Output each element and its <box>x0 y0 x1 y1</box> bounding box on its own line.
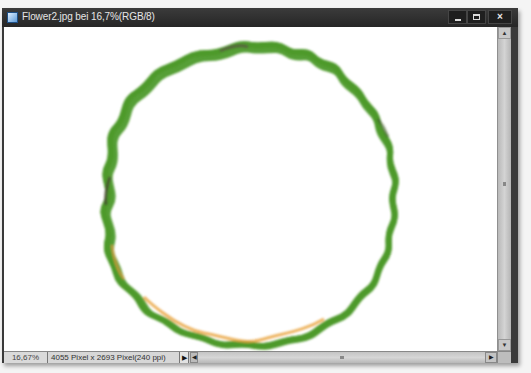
info-menu-button[interactable]: ▶ <box>180 352 189 363</box>
arrow-down-icon: ▼ <box>502 342 508 348</box>
wreath-ring-image <box>4 27 497 351</box>
window-title: Flower2.jpg bei 16,7%(RGB/8) <box>22 11 155 22</box>
arrow-up-icon: ▲ <box>502 30 508 36</box>
horizontal-scrollbar[interactable]: ◀ ▶ <box>190 352 497 363</box>
status-bar: 16,67% 4055 Pixel x 2693 Pixel(240 ppi) … <box>4 351 511 363</box>
title-bar[interactable]: Flower2.jpg bei 16,7%(RGB/8) × <box>2 8 518 27</box>
scroll-right-button[interactable]: ▶ <box>485 352 497 363</box>
minimize-icon <box>455 19 461 21</box>
maximize-button[interactable] <box>467 10 486 24</box>
image-canvas[interactable] <box>4 27 497 351</box>
vertical-scrollbar[interactable]: ▲ ▼ <box>497 27 511 351</box>
scroll-left-button[interactable]: ◀ <box>190 352 198 363</box>
close-button[interactable]: × <box>488 10 512 24</box>
scroll-up-button[interactable]: ▲ <box>498 27 511 39</box>
scroll-grip-icon <box>503 182 506 186</box>
arrow-right-icon: ▶ <box>489 354 494 360</box>
document-info: 4055 Pixel x 2693 Pixel(240 ppi) <box>48 352 180 363</box>
scroll-down-button[interactable]: ▼ <box>498 339 511 351</box>
document-window: Flower2.jpg bei 16,7%(RGB/8) × <box>2 8 518 363</box>
maximize-icon <box>473 14 480 20</box>
resize-corner[interactable] <box>497 352 511 363</box>
play-arrow-icon: ▶ <box>182 354 187 361</box>
minimize-button[interactable] <box>448 10 467 24</box>
close-icon: × <box>497 11 503 22</box>
scroll-grip-icon <box>340 356 344 359</box>
document-icon <box>7 12 18 23</box>
arrow-left-icon: ◀ <box>192 354 197 360</box>
zoom-level-field[interactable]: 16,67% <box>4 352 48 363</box>
